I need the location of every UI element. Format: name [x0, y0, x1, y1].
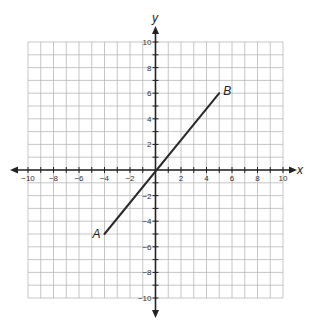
- y-tick-label: −4: [142, 217, 152, 226]
- x-tick-label: 6: [230, 174, 235, 183]
- y-tick-label: −8: [142, 268, 152, 277]
- y-tick-label: 2: [147, 140, 152, 149]
- x-axis-right-arrow-icon: [289, 167, 297, 174]
- x-tick-label: 4: [204, 174, 209, 183]
- x-tick-label: −2: [125, 174, 135, 183]
- x-axis-label: x: [296, 163, 304, 177]
- x-tick-label: 8: [255, 174, 260, 183]
- point-label-a: A: [92, 227, 101, 241]
- x-tick-label: −8: [49, 174, 59, 183]
- x-tick-label: 2: [179, 174, 184, 183]
- y-tick-label: 4: [147, 115, 152, 124]
- x-tick-label: −10: [21, 174, 35, 183]
- x-axis-left-arrow-icon: [10, 167, 18, 174]
- y-tick-label: −6: [142, 243, 152, 252]
- segment-line: [105, 93, 220, 234]
- y-axis-down-arrow-icon: [152, 310, 159, 318]
- x-tick-label: 10: [279, 174, 288, 183]
- line-segment-ab: AB: [92, 84, 232, 241]
- y-axis-up-arrow-icon: [152, 26, 159, 34]
- y-tick-label: −2: [142, 192, 152, 201]
- y-tick-label: 8: [147, 64, 152, 73]
- point-label-b: B: [223, 84, 231, 98]
- y-tick-label: −10: [138, 294, 152, 303]
- x-tick-label: −4: [100, 174, 110, 183]
- y-axis-label: y: [151, 11, 159, 25]
- y-tick-label: 10: [143, 38, 152, 47]
- coordinate-plane: −10−8−6−4−2246810 108642−2−4−6−8−10 AB x…: [0, 0, 317, 332]
- x-tick-label: −6: [74, 174, 84, 183]
- y-tick-label: 6: [147, 89, 152, 98]
- x-tick-labels: −10−8−6−4−2246810: [21, 174, 288, 183]
